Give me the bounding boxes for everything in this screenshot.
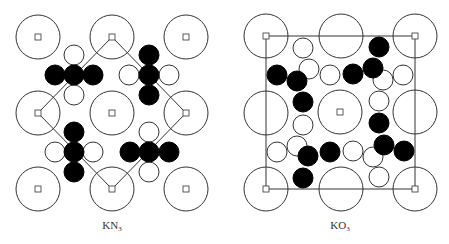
light-atom-circle: [64, 45, 84, 65]
dark-atom-circle: [159, 142, 179, 162]
light-atom-circle: [293, 38, 313, 58]
lattice-point-square-icon: [412, 33, 418, 39]
dark-atom-circle: [64, 142, 84, 162]
crystal-structure-diagram: [0, 0, 449, 244]
light-atom-circle: [83, 142, 103, 162]
light-atom-circle: [343, 141, 363, 161]
dark-atom-circle: [394, 141, 414, 161]
light-atom-circle: [393, 65, 413, 85]
light-atom-circle: [139, 162, 159, 182]
dark-atom-circle: [267, 65, 287, 85]
light-atom-circle: [139, 122, 159, 142]
lattice-point-square-icon: [35, 186, 41, 192]
dark-atom-circle: [293, 168, 313, 188]
dark-atom-circle: [139, 65, 159, 85]
light-atom-circle: [159, 65, 179, 85]
dark-atom-circle: [369, 37, 389, 57]
light-atom-circle: [119, 65, 139, 85]
kn3-caption: KN3: [82, 219, 142, 233]
lattice-point-square-icon: [109, 34, 115, 40]
lattice-point-square-icon: [263, 33, 269, 39]
lattice-point-square-icon: [183, 110, 189, 116]
lattice-point-square-icon: [35, 34, 41, 40]
light-atom-circle: [64, 85, 84, 105]
light-atom-circle: [320, 65, 340, 85]
lattice-point-square-icon: [412, 186, 418, 192]
light-atom-circle: [369, 91, 389, 111]
dark-atom-circle: [369, 113, 389, 133]
dark-atom-circle: [45, 65, 65, 85]
dark-atom-circle: [64, 162, 84, 182]
dark-atom-circle: [139, 45, 159, 65]
dark-atom-circle: [374, 135, 394, 155]
lattice-point-square-icon: [337, 109, 343, 115]
dark-atom-circle: [83, 65, 103, 85]
dark-atom-circle: [320, 142, 340, 162]
ko3-structure-panel: [244, 14, 437, 211]
kn3-caption-subscript: 3: [118, 225, 122, 233]
kn3-structure-panel: [16, 15, 208, 211]
lattice-point-square-icon: [109, 186, 115, 192]
dark-atom-circle: [64, 65, 84, 85]
light-atom-circle: [369, 167, 389, 187]
dark-atom-circle: [298, 146, 318, 166]
light-atom-circle: [45, 142, 65, 162]
dark-atom-circle: [343, 64, 363, 84]
lattice-point-square-icon: [183, 34, 189, 40]
light-atom-circle: [267, 142, 287, 162]
kn3-caption-main: KN: [102, 219, 118, 231]
ko3-caption: KO3: [310, 219, 370, 233]
dark-atom-circle: [293, 92, 313, 112]
dark-atom-circle: [139, 142, 159, 162]
dark-atom-circle: [64, 122, 84, 142]
lattice-point-square-icon: [35, 110, 41, 116]
ko3-caption-main: KO: [330, 219, 346, 231]
lattice-point-square-icon: [109, 110, 115, 116]
lattice-point-square-icon: [183, 186, 189, 192]
dark-atom-circle: [363, 58, 383, 78]
dark-atom-circle: [139, 85, 159, 105]
dark-atom-circle: [120, 142, 140, 162]
lattice-point-square-icon: [263, 186, 269, 192]
dark-atom-circle: [287, 71, 307, 91]
ko3-caption-subscript: 3: [346, 225, 350, 233]
light-atom-circle: [293, 115, 313, 135]
